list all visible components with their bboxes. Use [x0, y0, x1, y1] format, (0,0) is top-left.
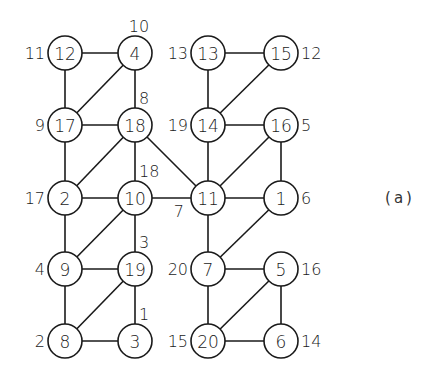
node-id-text: 8 [60, 332, 71, 352]
node-weight-label: 16 [301, 260, 321, 279]
node-8: 8 [48, 324, 82, 358]
node-id-text: 7 [203, 260, 214, 280]
node-16: 16 [264, 108, 298, 142]
node-id-text: 1 [276, 189, 287, 209]
node-15: 15 [264, 36, 298, 70]
node-id-text: 4 [130, 44, 141, 64]
node-weight-label: 1 [139, 305, 149, 324]
node-weight-label: 2 [35, 332, 45, 351]
node-id-text: 3 [130, 332, 141, 352]
node-weight-label: 20 [168, 260, 188, 279]
node-3: 3 [118, 324, 152, 358]
node-weight-label: 12 [301, 44, 321, 63]
edge-layer [65, 53, 281, 341]
node-weight-label: 6 [301, 189, 311, 208]
node-id-text: 11 [197, 189, 219, 209]
node-5: 5 [264, 252, 298, 286]
node-id-text: 18 [124, 116, 146, 136]
node-id-text: 9 [60, 260, 71, 280]
node-weight-label: 7 [174, 202, 184, 221]
node-6: 6 [264, 324, 298, 358]
node-weight-label: 4 [35, 260, 45, 279]
node-id-text: 2 [60, 189, 71, 209]
node-1: 1 [264, 181, 298, 215]
node-7: 7 [191, 252, 225, 286]
node-2: 2 [48, 181, 82, 215]
node-weight-label: 14 [301, 332, 321, 351]
node-14: 14 [191, 108, 225, 142]
node-weight-label: 10 [129, 17, 149, 36]
node-19: 19 [118, 252, 152, 286]
node-id-text: 16 [270, 116, 292, 136]
node-12: 12 [48, 36, 82, 70]
node-id-text: 13 [197, 44, 219, 64]
node-weight-label: 3 [139, 233, 149, 252]
node-11: 11 [191, 181, 225, 215]
node-weight-label: 18 [139, 162, 159, 181]
node-weight-label: 9 [35, 116, 45, 135]
node-weight-label: 8 [139, 89, 149, 108]
node-13: 13 [191, 36, 225, 70]
node-weight-label: 11 [25, 44, 45, 63]
node-weight-label: 19 [168, 116, 188, 135]
node-4: 4 [118, 36, 152, 70]
node-id-text: 15 [270, 44, 292, 64]
node-id-text: 12 [54, 44, 76, 64]
node-layer: 1241315171814162101119197583206 [48, 36, 298, 358]
node-id-text: 17 [54, 116, 76, 136]
node-20: 20 [191, 324, 225, 358]
node-weight-label: 5 [301, 116, 311, 135]
node-id-text: 20 [197, 332, 219, 352]
node-weight-label: 13 [168, 44, 188, 63]
node-18: 18 [118, 108, 152, 142]
node-id-text: 5 [276, 260, 287, 280]
node-10: 10 [118, 181, 152, 215]
figure-caption: (a) [385, 189, 415, 207]
node-id-text: 10 [124, 189, 146, 209]
graph-diagram: 1241315171814162101119197583206 11101312… [0, 0, 434, 382]
node-weight-label: 17 [25, 189, 45, 208]
node-id-text: 6 [276, 332, 287, 352]
node-weight-label: 15 [168, 332, 188, 351]
node-9: 9 [48, 252, 82, 286]
node-17: 17 [48, 108, 82, 142]
node-id-text: 19 [124, 260, 146, 280]
node-id-text: 14 [197, 116, 219, 136]
